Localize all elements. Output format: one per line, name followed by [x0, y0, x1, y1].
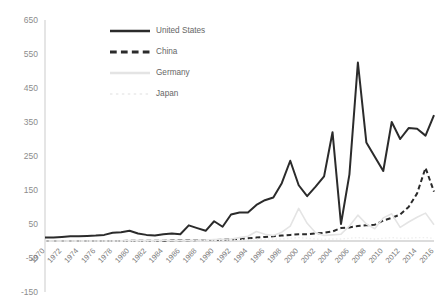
x-axis-tick-label: 2014 [401, 246, 419, 265]
y-axis-tick-label: 250 [24, 151, 38, 161]
y-axis-tick-label: 450 [24, 83, 38, 93]
x-axis-tick-label: 2016 [417, 246, 435, 265]
x-axis-tick-label: 2002 [299, 246, 317, 265]
x-axis-tick-label: 1986 [164, 246, 182, 265]
x-axis-tick-label: 1974 [62, 246, 80, 265]
x-axis-tick-label: 1982 [130, 246, 148, 265]
y-axis-tick-label: 550 [24, 49, 38, 59]
x-axis-tick-label: 1998 [265, 246, 283, 265]
series-line-china [45, 168, 434, 241]
x-axis-tick-label: 1984 [147, 246, 165, 265]
x-axis-tick-label: 2000 [282, 246, 300, 265]
x-axis-tick-label: 1978 [96, 246, 114, 265]
legend: United StatesChinaGermanyJapan [110, 26, 205, 98]
x-axis-tick-label: 1992 [215, 246, 233, 265]
x-axis-tick-label: 1988 [181, 246, 199, 265]
y-axis-tick-label: -150 [21, 287, 38, 297]
legend-label-united-states: United States [156, 26, 205, 35]
y-axis-tick-label: 650 [24, 15, 38, 25]
line-chart: 65055045035025015050-50-150 197019721974… [0, 0, 440, 306]
legend-label-japan: Japan [156, 89, 179, 98]
legend-label-germany: Germany [156, 68, 191, 77]
x-axis-tick-labels: 1970197219741976197819801982198419861988… [28, 246, 435, 265]
x-axis-tick-label: 2006 [333, 246, 351, 265]
x-axis-tick-label: 1980 [113, 246, 131, 265]
y-axis-tick-label: 350 [24, 117, 38, 127]
x-axis-tick-label: 1994 [231, 246, 249, 265]
x-axis-tick-label: 1976 [79, 246, 97, 265]
chart-canvas: 65055045035025015050-50-150 197019721974… [0, 0, 440, 306]
x-axis-tick-label: 2010 [367, 246, 385, 265]
data-series-group [45, 63, 434, 242]
y-axis-tick-label: 50 [29, 219, 39, 229]
y-axis-tick-label: 150 [24, 185, 38, 195]
x-axis-tick-label: 1990 [198, 246, 216, 265]
series-line-united-states [45, 63, 434, 238]
x-axis-tick-label: 1972 [45, 246, 63, 265]
x-axis-tick-label: 2008 [350, 246, 368, 265]
x-axis-tick-label: 1970 [28, 246, 46, 265]
x-axis-tick-label: 2012 [384, 246, 402, 265]
legend-label-china: China [156, 47, 178, 56]
x-axis-tick-label: 1996 [248, 246, 266, 265]
x-axis-tick-label: 2004 [316, 246, 334, 265]
